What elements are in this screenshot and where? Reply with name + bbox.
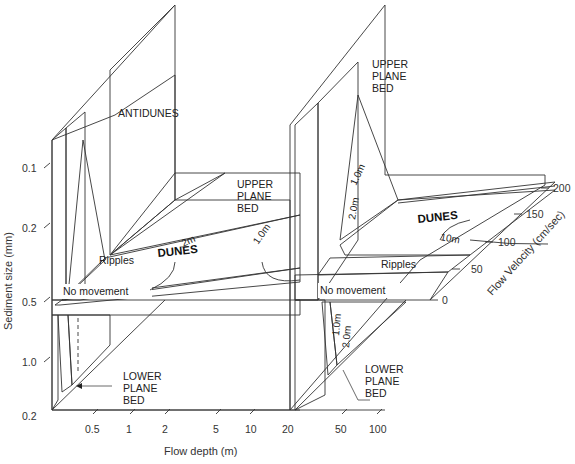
right-lower-hatch bbox=[295, 300, 325, 410]
tick-depth-3: 5 bbox=[213, 423, 219, 435]
tick-velocity-1: 50 bbox=[471, 263, 483, 275]
tick-depth-2: 2 bbox=[162, 423, 168, 435]
label-ripples-left: Ripples bbox=[99, 254, 134, 266]
right-panel bbox=[290, 5, 555, 410]
dunes-floor-right bbox=[340, 190, 555, 255]
sediment-size-axis: 0.1 0.2 0.5 1.0 0.2 Sediment size (mm) bbox=[2, 162, 50, 422]
label-upper-plane-bed-right-2: PLANE bbox=[372, 70, 406, 82]
right-wall-hatch bbox=[295, 103, 318, 300]
tick-sediment-2: 0.5 bbox=[22, 296, 37, 308]
label-ripples-right: Ripples bbox=[381, 258, 416, 270]
antidunes-field bbox=[110, 5, 175, 255]
tick-depth-5: 20 bbox=[282, 423, 294, 435]
label-lower-plane-bed-right-2: PLANE bbox=[365, 375, 399, 387]
label-lower-plane-bed-left-1: LOWER bbox=[123, 370, 162, 382]
label-upper-plane-bed-right-1: UPPER bbox=[372, 58, 409, 70]
tick-velocity-3: 150 bbox=[526, 208, 544, 220]
axis-label-flow-depth: Flow depth (m) bbox=[164, 445, 237, 457]
tick-depth-4: 10 bbox=[245, 423, 257, 435]
tick-depth-0: 0.5 bbox=[85, 423, 100, 435]
flow-velocity-axis: 0 50 100 150 200 Flow Velocity (cm/sec) bbox=[430, 182, 571, 306]
tick-velocity-2: 100 bbox=[498, 236, 516, 248]
no-movement-wall-hatch bbox=[52, 128, 66, 300]
label-upper-plane-bed-left-2: PLANE bbox=[237, 190, 271, 202]
left-panel bbox=[52, 5, 300, 410]
contour-right-wall-1-0m: 1.0m bbox=[348, 162, 367, 187]
label-lower-plane-bed-left-2: PLANE bbox=[123, 382, 157, 394]
axis-label-flow-velocity: Flow Velocity (cm/sec) bbox=[485, 208, 567, 297]
label-lower-plane-bed-right-1: LOWER bbox=[365, 363, 404, 375]
label-lower-plane-bed-right-3: BED bbox=[365, 387, 387, 399]
label-no-movement-left: No movement bbox=[63, 285, 128, 297]
bedform-diagram: ANTIDUNES UPPER PLANE BED UPPER PLANE BE… bbox=[0, 0, 575, 464]
label-upper-plane-bed-left-3: BED bbox=[237, 202, 259, 214]
contour-right-wall-2-0m: 2.0m bbox=[346, 197, 361, 221]
axis-label-sediment-size: Sediment size (mm) bbox=[2, 232, 14, 330]
flow-depth-axis: 0.5 1 2 5 10 20 50 100 Flow depth (m) bbox=[85, 409, 387, 457]
tick-depth-1: 1 bbox=[126, 423, 132, 435]
label-upper-plane-bed-left-1: UPPER bbox=[237, 178, 274, 190]
ripples-wall-stipple bbox=[66, 112, 85, 300]
label-no-movement-right: No movement bbox=[320, 284, 385, 296]
tick-depth-6: 50 bbox=[335, 423, 347, 435]
tick-velocity-0: 0 bbox=[442, 294, 448, 306]
tick-velocity-4: 200 bbox=[553, 182, 571, 194]
tick-sediment-0: 0.1 bbox=[22, 162, 37, 174]
label-dunes-right: DUNES bbox=[417, 209, 459, 225]
dunes-wall-wedge bbox=[68, 140, 105, 295]
label-upper-plane-bed-right-3: BED bbox=[372, 82, 394, 94]
contour-right-floor-10m: 10m bbox=[440, 231, 461, 245]
tick-sediment-3: 1.0 bbox=[22, 356, 37, 368]
tick-sediment-1: 0.2 bbox=[22, 222, 37, 234]
label-antidunes: ANTIDUNES bbox=[118, 107, 179, 119]
contour-right-lower-2-0m: 2.0m bbox=[340, 325, 353, 348]
lower-wall-hatch bbox=[52, 315, 58, 410]
tick-depth-7: 100 bbox=[369, 423, 387, 435]
label-lower-plane-bed-left-3: BED bbox=[123, 394, 145, 406]
tick-sediment-4: 0.2 bbox=[22, 410, 37, 422]
